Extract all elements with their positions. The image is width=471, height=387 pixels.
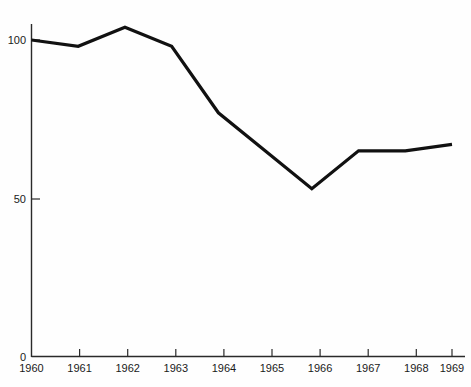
x-tick-label-1966: 1966	[308, 362, 332, 374]
y-tick-label-50: 50	[14, 193, 26, 205]
x-tick-labels: 1960 1961 1962 1963 1964 1965 1966 1967 …	[19, 362, 464, 374]
chart-canvas: 100 50 0 1960 1961 1962 1963 1964 1965 1…	[0, 0, 471, 387]
x-tick-label-1962: 1962	[115, 362, 139, 374]
x-tick-label-1964: 1964	[212, 362, 236, 374]
data-series-line	[32, 27, 453, 188]
x-tick-label-1969: 1969	[440, 362, 464, 374]
y-tick-label-100: 100	[8, 34, 26, 46]
x-tick-marks	[80, 349, 452, 357]
x-tick-label-1963: 1963	[164, 362, 188, 374]
x-tick-label-1960: 1960	[19, 362, 43, 374]
x-tick-label-1965: 1965	[260, 362, 284, 374]
x-tick-label-1967: 1967	[356, 362, 380, 374]
x-tick-label-1968: 1968	[404, 362, 428, 374]
line-chart: 100 50 0 1960 1961 1962 1963 1964 1965 1…	[0, 0, 471, 387]
x-tick-label-1961: 1961	[67, 362, 91, 374]
